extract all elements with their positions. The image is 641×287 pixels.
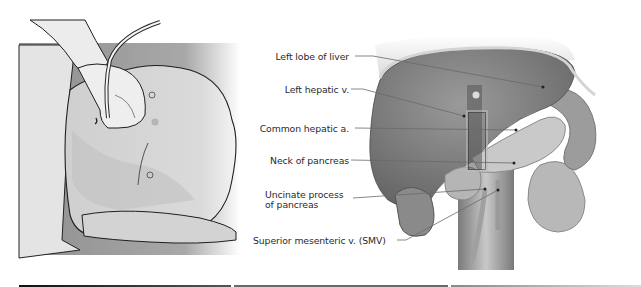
label-left-hepatic-vein: Left hepatic v. [285,84,349,95]
anatomy-illustration-panel: Left lobe of liver Left hepatic v. Commo… [240,0,641,270]
patient-illustration-panel [0,0,240,270]
liver-pancreas-anatomy-icon [240,0,641,270]
label-neck-of-pancreas: Neck of pancreas [270,155,349,166]
label-superior-mesenteric-vein: Superior mesenteric v. (SMV) [253,235,386,246]
label-uncinate-process-line2: of pancreas [265,199,318,210]
label-left-lobe-of-liver: Left lobe of liver [275,51,349,62]
label-common-hepatic-artery: Common hepatic a. [260,123,349,134]
patient-torso-icon [0,0,240,270]
